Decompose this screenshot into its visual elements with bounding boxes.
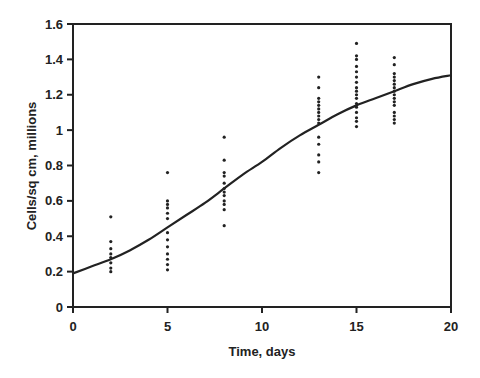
x-tick-label: 10 — [255, 319, 269, 334]
data-point — [223, 194, 226, 197]
data-point — [317, 75, 320, 78]
data-point — [223, 199, 226, 202]
data-point — [223, 203, 226, 206]
data-point — [393, 118, 396, 121]
data-point — [317, 100, 320, 103]
data-point — [317, 160, 320, 163]
data-point — [355, 125, 358, 128]
y-tick-label: 0.6 — [45, 193, 63, 208]
data-point — [166, 263, 169, 266]
data-point — [393, 97, 396, 100]
data-point — [317, 97, 320, 100]
data-point — [393, 111, 396, 114]
data-point — [166, 212, 169, 215]
data-point — [393, 114, 396, 117]
data-point — [317, 153, 320, 156]
y-tick-label: 1 — [56, 123, 63, 138]
cell-growth-chart: 00.20.40.60.811.21.41.6 05101520 Time, d… — [0, 0, 480, 378]
data-point — [166, 206, 169, 209]
y-tick-label: 0 — [56, 300, 63, 315]
data-point — [317, 171, 320, 174]
data-point — [317, 111, 320, 114]
y-tick-label: 1.4 — [45, 52, 64, 67]
data-point — [317, 104, 320, 107]
data-point — [393, 63, 396, 66]
data-point — [223, 208, 226, 211]
data-point — [166, 268, 169, 271]
data-point — [393, 104, 396, 107]
x-tick-label: 5 — [164, 319, 171, 334]
data-point — [393, 72, 396, 75]
data-point — [355, 116, 358, 119]
data-point — [166, 245, 169, 248]
data-point — [393, 121, 396, 124]
y-tick-label: 0.4 — [45, 229, 64, 244]
data-point — [393, 75, 396, 78]
data-point — [223, 224, 226, 227]
data-point — [355, 75, 358, 78]
x-axis-title: Time, days — [229, 344, 296, 359]
y-axis: 00.20.40.60.811.21.41.6 — [45, 17, 73, 315]
plot-border — [73, 24, 451, 307]
data-point — [393, 100, 396, 103]
x-axis: 05101520 — [69, 307, 458, 334]
data-point — [393, 93, 396, 96]
data-point — [355, 70, 358, 73]
data-point — [223, 190, 226, 193]
data-point — [355, 97, 358, 100]
data-point — [109, 252, 112, 255]
data-point — [166, 238, 169, 241]
data-point — [166, 203, 169, 206]
data-point — [109, 261, 112, 264]
data-point — [223, 159, 226, 162]
data-point — [223, 182, 226, 185]
y-tick-label: 1.2 — [45, 87, 63, 102]
y-axis-title: Cells/sq cm, millions — [24, 102, 39, 231]
x-tick-label: 20 — [444, 319, 458, 334]
x-tick-label: 0 — [69, 319, 76, 334]
x-tick-label: 15 — [349, 319, 363, 334]
data-point — [109, 240, 112, 243]
data-point — [355, 54, 358, 57]
data-point — [166, 199, 169, 202]
data-point — [109, 247, 112, 250]
data-point — [166, 217, 169, 220]
data-point — [355, 58, 358, 61]
plot-frame — [73, 24, 451, 307]
data-point — [355, 86, 358, 89]
data-point — [355, 111, 358, 114]
data-point — [393, 56, 396, 59]
data-point — [355, 65, 358, 68]
data-point — [355, 42, 358, 45]
data-point — [223, 136, 226, 139]
y-tick-label: 0.8 — [45, 158, 63, 173]
data-point — [223, 171, 226, 174]
data-point — [166, 231, 169, 234]
data-point — [317, 143, 320, 146]
y-tick-label: 1.6 — [45, 17, 63, 32]
data-point — [393, 86, 396, 89]
data-point — [166, 252, 169, 255]
data-point — [317, 114, 320, 117]
data-point — [317, 118, 320, 121]
data-point — [393, 83, 396, 86]
data-point — [393, 79, 396, 82]
data-point — [109, 270, 112, 273]
data-point — [355, 120, 358, 123]
data-point — [109, 266, 112, 269]
y-tick-label: 0.2 — [45, 264, 63, 279]
data-point — [223, 175, 226, 178]
data-point — [317, 107, 320, 110]
data-point — [355, 90, 358, 93]
data-point — [166, 171, 169, 174]
data-point — [166, 258, 169, 261]
data-point — [317, 136, 320, 139]
data-point — [355, 81, 358, 84]
data-point — [109, 215, 112, 218]
data-point — [317, 86, 320, 89]
data-point — [355, 93, 358, 96]
